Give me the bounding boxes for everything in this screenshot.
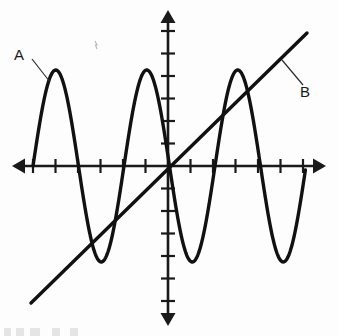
y-axis-arrow-down [161,313,176,326]
curve-label-b: B [300,84,310,99]
x-axis-arrow-left [12,159,25,174]
scan-artifact-mark [95,41,97,49]
leader-line-a [32,59,50,82]
chart-figure: A B [0,0,338,336]
leader-line-b [282,60,303,85]
x-axis-arrow-right [313,159,326,174]
y-axis-arrow-up [161,10,176,23]
chart-canvas [0,0,338,336]
page-artifact-text [4,328,124,336]
curve-label-a: A [14,47,24,62]
